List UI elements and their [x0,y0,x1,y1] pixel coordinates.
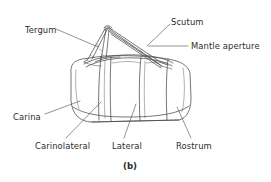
label-carina: Carina [13,112,41,122]
label-tergum: Tergum [25,25,57,35]
leader-tergum [56,29,98,47]
label-carinolateral: Carinolateral [35,141,90,151]
label-rostrum: Rostrum [176,141,212,151]
leader-carina [45,101,80,114]
leader-carinolateral [66,102,101,138]
leader-lines [45,24,191,138]
label-lateral: Lateral [112,141,142,151]
shell-shading-lines [76,61,185,118]
label-scutum: Scutum [171,17,204,27]
label-mantle-aperture: Mantle aperture [191,41,260,51]
leader-scutum [147,24,170,46]
valve-base-junction [84,62,172,69]
figure-container: Tergum Scutum Mantle aperture Carina Car… [0,0,271,182]
figure-caption: (b) [123,161,137,171]
basal-rim [73,106,189,122]
